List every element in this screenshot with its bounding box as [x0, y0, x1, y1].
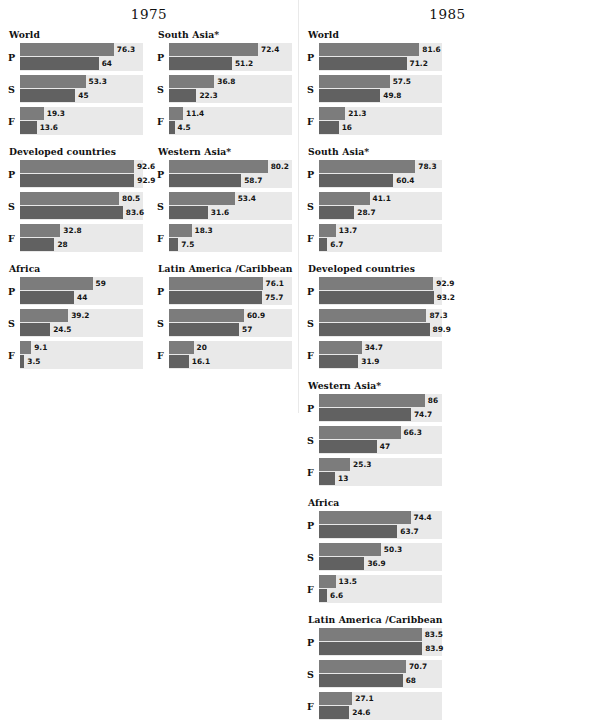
bar-top	[169, 75, 214, 88]
bar-bot	[169, 291, 262, 304]
row-label: S	[307, 669, 319, 680]
bar-bot	[20, 206, 123, 219]
bar-bot	[319, 440, 377, 453]
bar-bot	[169, 323, 239, 336]
row-label: S	[307, 201, 319, 212]
group: South Asia*P72.451.2S36.822.3F11.44.5	[149, 29, 298, 139]
group-grid: WorldP81.671.2S57.549.8F21.316South Asia…	[299, 29, 596, 724]
bar-bot	[20, 238, 54, 251]
bar-bot	[319, 642, 422, 655]
group: WorldP76.364S53.345F19.313.6	[0, 29, 149, 139]
bar-bot	[169, 206, 208, 219]
bar-bot	[169, 121, 175, 134]
bar-row: S39.224.5	[8, 309, 143, 337]
bar-track: 83.583.9	[319, 628, 442, 656]
bar-value-label: 92.6	[137, 163, 155, 170]
bar-bot	[20, 323, 50, 336]
bar-top	[20, 341, 31, 354]
bar-value-label: 9.1	[34, 344, 47, 351]
bar-bot	[319, 206, 354, 219]
bar-track: 92.692.9	[20, 160, 143, 188]
group: Developed countriesP92.692.9S80.583.6F32…	[0, 146, 149, 256]
bar-bot	[169, 355, 189, 368]
bar-value-label: 19.3	[47, 110, 65, 117]
group: AfricaP5944S39.224.5F9.13.5	[0, 263, 149, 373]
bar-value-label: 18.3	[195, 227, 213, 234]
bar-value-label: 47	[380, 443, 390, 450]
group: AfricaP74.463.7S50.336.9F13.56.6	[299, 497, 448, 607]
bar-row: P80.258.7	[157, 160, 292, 188]
bar-row: S53.431.6	[157, 192, 292, 220]
bar-track: 74.463.7	[319, 511, 442, 539]
bar-track: 87.389.9	[319, 309, 442, 337]
bar-top	[20, 107, 44, 120]
bar-top	[319, 628, 422, 641]
bar-top	[319, 692, 352, 705]
bar-value-label: 20	[197, 344, 207, 351]
bar-value-label: 7.5	[181, 241, 194, 248]
bar-row: F13.76.7	[307, 224, 442, 252]
row-label: S	[8, 201, 20, 212]
group-title: World	[308, 29, 442, 40]
bar-track: 66.347	[319, 426, 442, 454]
bar-row: F19.313.6	[8, 107, 143, 135]
bar-bot	[169, 57, 232, 70]
bar-value-label: 39.2	[71, 312, 89, 319]
bar-top	[319, 394, 425, 407]
panel-1985: 1985WorldP81.671.2S57.549.8F21.316South …	[298, 0, 596, 413]
bar-row: P78.360.4	[307, 160, 442, 188]
bar-row: F11.44.5	[157, 107, 292, 135]
bar-track: 19.313.6	[20, 107, 143, 135]
bar-value-label: 87.3	[429, 312, 447, 319]
bar-value-label: 83.6	[126, 209, 144, 216]
bar-top	[169, 192, 235, 205]
bar-value-label: 60.9	[247, 312, 265, 319]
bar-top	[319, 160, 415, 173]
bar-track: 18.37.5	[169, 224, 292, 252]
bar-row: S66.347	[307, 426, 442, 454]
bar-value-label: 70.7	[409, 663, 427, 670]
group-title: Africa	[308, 497, 442, 508]
bar-track: 70.768	[319, 660, 442, 688]
bar-row: S53.345	[8, 75, 143, 103]
bar-track: 2016.1	[169, 341, 292, 369]
bar-top	[20, 160, 134, 173]
group-title: Latin America /Caribbean	[158, 263, 292, 274]
bar-value-label: 75.7	[265, 294, 283, 301]
bar-row: P5944	[8, 277, 143, 305]
bar-value-label: 63.7	[400, 528, 418, 535]
bar-value-label: 76.3	[117, 46, 135, 53]
group-title: World	[9, 29, 143, 40]
row-label: P	[307, 403, 319, 414]
bar-value-label: 13.6	[40, 124, 58, 131]
bar-top	[20, 43, 114, 56]
bar-top	[319, 426, 401, 439]
row-label: P	[8, 169, 20, 180]
bar-track: 9.13.5	[20, 341, 143, 369]
bar-value-label: 50.3	[384, 546, 402, 553]
row-label: S	[307, 552, 319, 563]
bar-top	[319, 75, 390, 88]
bar-row: S41.128.7	[307, 192, 442, 220]
row-label: F	[157, 350, 169, 361]
bar-value-label: 32.8	[63, 227, 81, 234]
bar-bot	[20, 57, 99, 70]
row-label: P	[307, 286, 319, 297]
bar-bot	[319, 525, 397, 538]
bar-track: 92.993.2	[319, 277, 442, 305]
bar-row: S70.768	[307, 660, 442, 688]
bar-value-label: 13.5	[339, 578, 357, 585]
bar-value-label: 36.8	[217, 78, 235, 85]
row-label: F	[307, 116, 319, 127]
group: Developed countriesP92.993.2S87.389.9F34…	[299, 263, 448, 373]
bar-row: F18.37.5	[157, 224, 292, 252]
bar-track: 50.336.9	[319, 543, 442, 571]
group: Western Asia*P80.258.7S53.431.6F18.37.5	[149, 146, 298, 256]
bar-track: 57.549.8	[319, 75, 442, 103]
bar-row: P8674.7	[307, 394, 442, 422]
bar-value-label: 44	[77, 294, 87, 301]
bar-value-label: 16.1	[192, 358, 210, 365]
bar-value-label: 71.2	[410, 60, 428, 67]
bar-row: F27.124.6	[307, 692, 442, 720]
bar-value-label: 53.4	[238, 195, 256, 202]
